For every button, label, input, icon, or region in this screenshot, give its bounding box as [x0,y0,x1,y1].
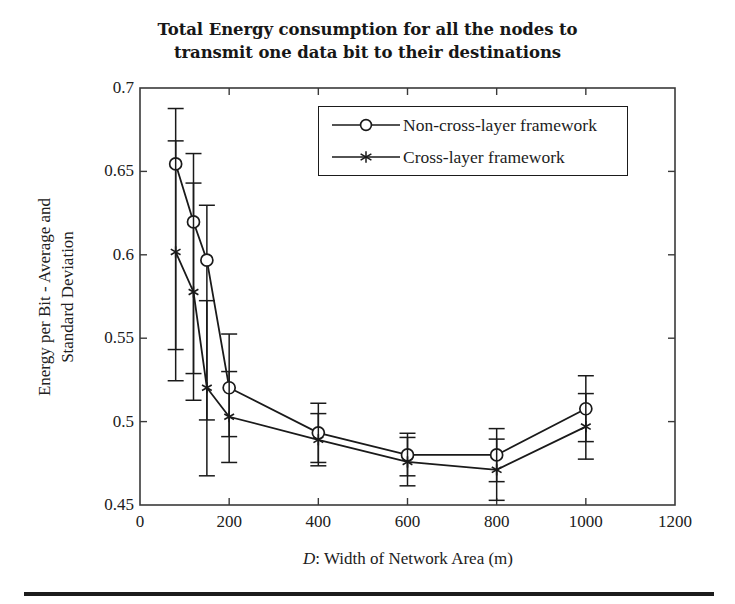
legend-entry-cross-layer: Cross-layer framework [319,141,627,173]
legend: Non-cross-layer framework Cross-layer fr… [318,106,628,176]
footer-rule [24,592,714,596]
star-marker [581,421,591,432]
figure-container: Total Energy consumption for all the nod… [0,0,735,604]
legend-label-1: Cross-layer framework [403,147,565,168]
circle-marker [201,254,213,266]
legend-sample-star-marker [329,144,403,170]
star-marker [189,286,199,297]
series-cross-layer [168,141,594,500]
legend-label-0: Non-cross-layer framework [403,115,597,136]
error-bar [168,141,184,381]
plot-area [0,0,735,604]
series-line [176,164,586,455]
series-line [176,252,586,470]
star-marker [171,246,181,257]
legend-sample-circle-marker [329,112,403,138]
legend-entry-non-cross-layer: Non-cross-layer framework [319,109,627,141]
